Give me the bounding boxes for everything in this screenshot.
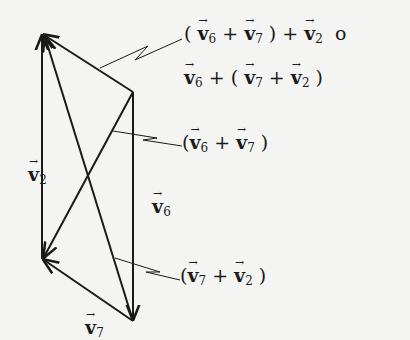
label-v6: v6 (140, 178, 171, 218)
vector-v7-plus-v2 (45, 37, 133, 321)
label-v2: v2 (16, 146, 47, 186)
annotation-total-sum-line2: v6 + ( v7 + v2 ) (184, 68, 323, 89)
annotation-v7-plus-v2: (v7 + v2 ) (180, 266, 266, 287)
leader-middle (113, 131, 182, 146)
annotation-v6-plus-v7: (v6 + v7 ) (182, 133, 268, 154)
leader-top (100, 39, 182, 68)
leader-bottom (115, 258, 180, 280)
label-v7: v7 (73, 299, 104, 339)
vector-sum-total (44, 35, 133, 92)
annotation-total-sum-line1: ( v6 + v7 ) + v2 o (184, 24, 347, 45)
